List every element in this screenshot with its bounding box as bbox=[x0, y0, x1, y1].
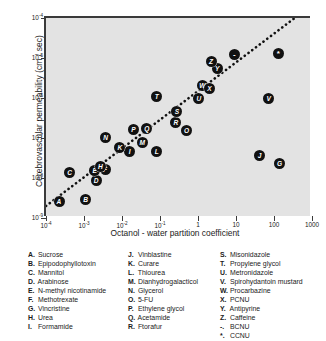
legend-item-name: BCNU bbox=[228, 323, 249, 330]
legend-item-key: T. bbox=[220, 259, 228, 268]
scatter-plot-figure: Cerebrovascular permeability (cm / sec) … bbox=[0, 0, 326, 341]
legend-item-A: A. Sucrose bbox=[28, 250, 128, 259]
legend-column-1: A. SucroseB. EpipodophyllotoxinC. Mannit… bbox=[28, 250, 128, 338]
legend-item-key: L. bbox=[128, 268, 136, 277]
legend-item-name: Curare bbox=[136, 260, 159, 267]
legend-item-name: Vinblastine bbox=[136, 251, 172, 258]
legend-item-key: U. bbox=[220, 268, 228, 277]
legend-item-W: W. Procarbazine bbox=[220, 286, 318, 295]
legend-item-name: PCNU bbox=[228, 296, 249, 303]
legend-item-O: O. 5-FU bbox=[128, 295, 220, 304]
legend-item-F: F. Methotrexate bbox=[28, 295, 128, 304]
legend-item-D: D. Arabinose bbox=[28, 277, 128, 286]
legend-item-key: -. bbox=[220, 322, 228, 331]
data-point-L: L bbox=[151, 146, 162, 157]
legend-item-L: L. Thiourea bbox=[128, 268, 220, 277]
legend-item-name: 5-FU bbox=[136, 296, 153, 303]
legend-item-key: G. bbox=[28, 304, 36, 313]
legend-item-G: G. Vincristine bbox=[28, 304, 128, 313]
legend-item-name: Spirohydantoin mustard bbox=[228, 278, 303, 285]
legend-item-key: Y. bbox=[220, 304, 228, 313]
data-point-I: I bbox=[124, 146, 135, 157]
legend-item-key: A. bbox=[28, 250, 36, 259]
data-point-U: U bbox=[193, 93, 204, 104]
legend-item-name: Sucrose bbox=[36, 251, 63, 258]
legend-item-name: Caffeine bbox=[228, 314, 255, 321]
plot-area: 10-410-510-610-710-810-9 10-410-310-210-… bbox=[44, 16, 310, 216]
data-point-M: M bbox=[137, 137, 148, 148]
legend-item-name: CCNU bbox=[228, 332, 250, 339]
legend-item-name: Thiourea bbox=[136, 269, 165, 276]
legend-item-H: H. Urea bbox=[28, 313, 128, 322]
y-tick-label-3: 10-7 bbox=[32, 134, 43, 142]
legend-item-key: E. bbox=[28, 286, 36, 295]
legend-item-key: K. bbox=[128, 259, 136, 268]
legend-item-key: V. bbox=[220, 277, 228, 286]
legend-item-key: M. bbox=[128, 277, 136, 286]
x-axis-label: Octanol - water partition coefficient bbox=[40, 228, 310, 238]
data-point-R: R bbox=[170, 117, 181, 128]
data-point-P: P bbox=[128, 124, 139, 135]
y-tick-label-1: 10-5 bbox=[32, 54, 43, 62]
legend-item-name: Methotrexate bbox=[36, 296, 78, 303]
legend-item-name: Dianhydrogalacticol bbox=[136, 278, 198, 285]
legend-item-key: F. bbox=[28, 295, 36, 304]
data-point-O: O bbox=[181, 125, 192, 136]
legend-item-Y: Y. Antipyrine bbox=[220, 304, 318, 313]
data-point-V: V bbox=[263, 93, 274, 104]
legend-item-name: Misonidazole bbox=[228, 251, 270, 258]
data-point-*: * bbox=[273, 48, 284, 59]
legend-item-name: Propylene glycol bbox=[228, 260, 280, 267]
legend-item-E: E. N-methyl nicotinamide bbox=[28, 286, 128, 295]
legend-item--: -. BCNU bbox=[220, 322, 318, 331]
legend-item-key: P. bbox=[128, 304, 136, 313]
y-tick-label-5: 10-9 bbox=[32, 214, 43, 222]
legend-item-key: *. bbox=[220, 331, 228, 340]
data-point-B: B bbox=[80, 194, 91, 205]
legend-item-key: S. bbox=[220, 250, 228, 259]
data-point-Q: Q bbox=[141, 123, 152, 134]
legend-item-*: *. CCNU bbox=[220, 331, 318, 340]
y-tick-label-4: 10-8 bbox=[32, 174, 43, 182]
legend-item-U: U. Metronidazole bbox=[220, 268, 318, 277]
data-point-N: N bbox=[100, 132, 111, 143]
data-point-J: J bbox=[254, 150, 265, 161]
legend-item-key: W. bbox=[220, 286, 228, 295]
legend-item-R: R. Ftorafur bbox=[128, 322, 220, 331]
legend-item-Q: Q. Acetamide bbox=[128, 313, 220, 322]
legend-item-key: J. bbox=[128, 250, 136, 259]
data-point-S: S bbox=[171, 106, 182, 117]
data-point-A: A bbox=[54, 196, 65, 207]
legend-item-key: I. bbox=[28, 322, 36, 331]
legend-item-name: Vincristine bbox=[36, 305, 70, 312]
legend-item-K: K. Curare bbox=[128, 259, 220, 268]
plot-clip: ABCDEFGHIJKLMNOPQRSTUVWXYZ-* bbox=[46, 18, 310, 216]
legend-item-key: D. bbox=[28, 277, 36, 286]
legend-item-name: Arabinose bbox=[36, 278, 69, 285]
data-point-T: T bbox=[151, 91, 162, 102]
legend-item-I: I. Formamide bbox=[28, 322, 128, 331]
legend-item-J: J. Vinblastine bbox=[128, 250, 220, 259]
legend-item-key: Z. bbox=[220, 313, 228, 322]
legend-item-key: B. bbox=[28, 259, 36, 268]
legend-item-name: Antipyrine bbox=[228, 305, 260, 312]
legend-item-name: Mannitol bbox=[36, 269, 64, 276]
data-point--: - bbox=[229, 49, 240, 60]
legend-item-key: R. bbox=[128, 322, 136, 331]
legend-column-2: J. VinblastineK. CurareL. ThioureaM. Dia… bbox=[128, 250, 220, 338]
legend-column-3: S. MisonidazoleT. Propylene glycolU. Met… bbox=[220, 250, 318, 338]
legend-item-B: B. Epipodophyllotoxin bbox=[28, 259, 128, 268]
data-point-X: X bbox=[204, 83, 215, 94]
legend-item-name: N-methyl nicotinamide bbox=[36, 287, 106, 294]
data-point-G: G bbox=[274, 158, 285, 169]
legend-item-key: H. bbox=[28, 313, 36, 322]
y-tick-label-2: 10-6 bbox=[32, 94, 43, 102]
legend-item-key: Q. bbox=[128, 313, 136, 322]
legend-item-X: X. PCNU bbox=[220, 295, 318, 304]
legend-item-name: Ftorafur bbox=[136, 323, 162, 330]
legend-item-key: C. bbox=[28, 268, 36, 277]
legend-item-name: Metronidazole bbox=[228, 269, 273, 276]
legend-item-C: C. Mannitol bbox=[28, 268, 128, 277]
data-point-D: D bbox=[91, 175, 102, 186]
legend-item-key: O. bbox=[128, 295, 136, 304]
